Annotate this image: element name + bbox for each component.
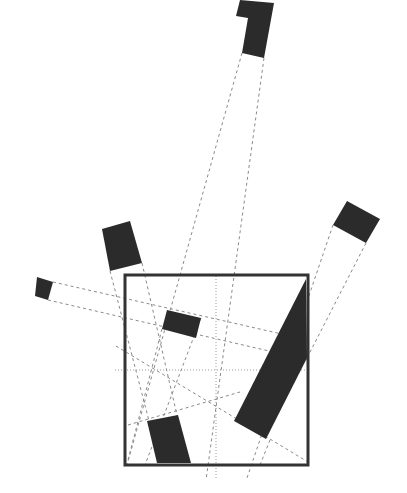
bottom-block	[147, 415, 191, 463]
top-block	[236, 0, 274, 58]
large-diagonal-block	[234, 279, 307, 439]
projection-line	[260, 440, 270, 465]
right-block	[333, 201, 380, 243]
projection-line	[128, 392, 240, 425]
projection-line	[127, 53, 242, 465]
projection-lines	[48, 53, 366, 480]
projection-line	[306, 243, 366, 360]
shapes	[35, 0, 380, 463]
projection-diagram	[0, 0, 407, 493]
upper-left-block	[102, 221, 142, 271]
small-left-block	[35, 277, 53, 300]
